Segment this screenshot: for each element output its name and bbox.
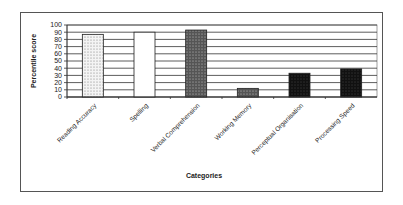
- y-tick-label: 60: [54, 50, 62, 57]
- y-tick-label: 10: [54, 86, 62, 93]
- bar: [341, 69, 362, 97]
- bar: [186, 30, 207, 97]
- y-axis-label: Percentile score: [30, 34, 37, 88]
- gridlines: [67, 25, 377, 97]
- y-tick-label: 0: [58, 93, 62, 100]
- bar: [82, 34, 103, 97]
- y-tick-label: 100: [50, 21, 62, 28]
- y-tick-label: 20: [54, 79, 62, 86]
- bar-chart: 0102030405060708090100Reading AccuracySp…: [0, 0, 403, 205]
- bar: [289, 73, 310, 97]
- y-tick-label: 90: [54, 29, 62, 36]
- x-axis-label: Categories: [186, 172, 222, 180]
- bars: [82, 30, 361, 97]
- x-tick-label: Perceptual Organisation: [250, 101, 305, 156]
- x-tick-label: Reading Accuracy: [56, 101, 99, 144]
- y-tick-label: 30: [54, 72, 62, 79]
- x-tick-label: Verbal Comprehension: [149, 101, 202, 154]
- y-tick-label: 50: [54, 57, 62, 64]
- y-tick-label: 80: [54, 36, 62, 43]
- x-tick-label: Processing Speed: [314, 101, 357, 144]
- x-tick-label: Working Memory: [213, 101, 254, 142]
- bar: [134, 32, 155, 97]
- x-tick-label: Spelling: [128, 101, 150, 123]
- y-tick-label: 70: [54, 43, 62, 50]
- y-tick-label: 40: [54, 65, 62, 72]
- bar: [237, 88, 258, 97]
